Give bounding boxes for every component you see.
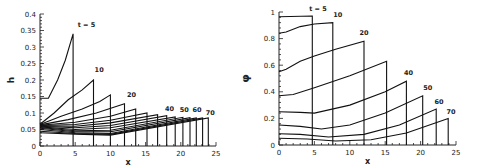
curve-label: 20 (127, 91, 137, 99)
series-group (40, 34, 208, 146)
x-tick-label: 20 (416, 149, 425, 157)
curve-labels: t = 5102040506070 (309, 5, 456, 117)
x-axis-label: x (365, 157, 371, 166)
phi-vs-x-chart: 051015202500.20.40.60.81xφt = 5102040506… (240, 0, 481, 167)
y-tick-label: 0.3 (25, 44, 36, 52)
y-tick-label: 0.05 (20, 126, 36, 134)
x-tick-label: 0 (277, 149, 281, 157)
y-tick-label: 0.15 (20, 93, 36, 101)
curve-label: 20 (359, 29, 369, 37)
x-tick-label: 10 (345, 149, 354, 157)
y-tick-label: 0.2 (264, 115, 275, 123)
curve-label: 10 (333, 11, 343, 19)
x-tick-label: 5 (73, 150, 77, 158)
series-line-t50 (279, 96, 423, 145)
y-tick-label: 0.25 (20, 60, 36, 68)
series-line-t60 (40, 118, 196, 146)
curve-label: 40 (404, 69, 414, 77)
x-tick-label: 25 (452, 149, 461, 157)
y-tick-label: 0.4 (25, 11, 37, 19)
y-tick-label: 0.2 (25, 77, 36, 85)
y-tick-label: 0.8 (264, 35, 275, 43)
y-tick-label: 0.1 (25, 110, 36, 118)
y-tick-label: 0.35 (20, 27, 36, 35)
curve-label: 70 (206, 109, 216, 117)
curve-label: 50 (423, 84, 433, 92)
y-axis-label: φ (240, 74, 252, 83)
y-tick-label: 0.6 (264, 62, 276, 70)
y-tick-label: 1 (271, 9, 275, 17)
axes: 051015202500.050.10.150.20.250.30.350.4x… (6, 11, 220, 168)
curve-label: 60 (192, 106, 202, 114)
curve-label: 10 (95, 66, 105, 74)
curve-label: t = 5 (309, 5, 327, 13)
h-vs-x-chart: 051015202500.050.10.150.20.250.30.350.4x… (0, 0, 240, 167)
x-tick-label: 25 (212, 150, 221, 158)
x-axis-label: x (125, 158, 131, 167)
h-chart-panel: 051015202500.050.10.150.20.250.30.350.4x… (0, 0, 240, 167)
phi-chart-panel: 051015202500.20.40.60.81xφt = 5102040506… (240, 0, 481, 167)
x-tick-label: 10 (106, 150, 115, 158)
curve-label: 60 (434, 98, 444, 106)
y-tick-label: 0 (32, 143, 36, 151)
x-tick-label: 5 (312, 149, 316, 157)
series-line-t10 (40, 80, 94, 146)
curve-label: 70 (447, 108, 457, 116)
curve-label: t = 5 (78, 21, 96, 29)
y-tick-label: 0 (271, 142, 275, 150)
x-tick-label: 20 (176, 150, 185, 158)
x-tick-label: 15 (141, 150, 150, 158)
series-line-t15 (40, 95, 110, 146)
x-tick-label: 15 (381, 149, 390, 157)
y-tick-label: 0.4 (264, 88, 276, 96)
x-tick-label: 0 (38, 150, 42, 158)
curve-label: 40 (165, 105, 175, 113)
curve-label: 50 (180, 106, 190, 114)
y-axis-label: h (6, 77, 16, 83)
